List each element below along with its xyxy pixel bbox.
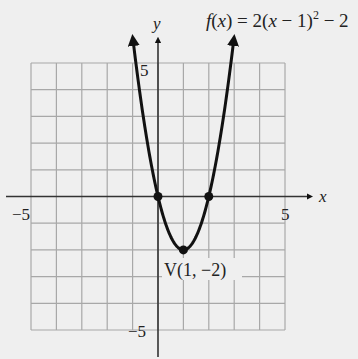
vertex-point [179,245,188,254]
function-title: f(x) = 2(x − 1)2 − 2 [206,8,349,32]
x-max-tick-label: 5 [281,205,290,224]
x-axis-label: x [318,187,327,206]
x-min-tick-label: −5 [12,205,30,224]
y-axis-label: y [151,14,161,33]
graph-canvas: f(x) = 2(x − 1)2 − 2 y x −5 5 5 −5 V(1, … [0,0,358,359]
y-min-tick-label: −5 [128,322,146,341]
y-max-tick-label: 5 [140,61,149,80]
vertex-label: V(1, −2) [164,260,226,281]
x-intercept-point [154,192,163,201]
x-intercept-point [204,192,213,201]
